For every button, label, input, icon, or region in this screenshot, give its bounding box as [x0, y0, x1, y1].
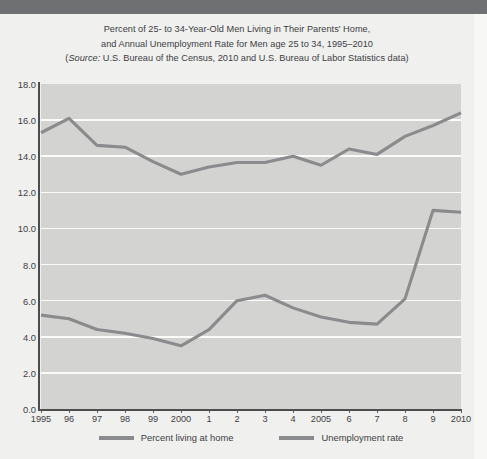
- x-axis-line: [38, 409, 462, 411]
- x-axis-tick: [405, 409, 406, 413]
- plot-area-wrapper: [41, 84, 461, 409]
- x-axis-tick: [209, 409, 210, 413]
- y-axis-line: [38, 82, 40, 411]
- legend-item-percent-living-at-home: Percent living at home: [99, 432, 234, 443]
- y-axis-tick-label: 4.0: [2, 331, 36, 342]
- x-axis-tick-label: 99: [148, 414, 158, 424]
- x-axis-tick: [97, 409, 98, 413]
- legend-label: Unemployment rate: [321, 432, 403, 443]
- y-axis-tick-label: 18.0: [2, 79, 36, 90]
- x-axis-tick: [41, 409, 42, 413]
- x-axis-tick: [265, 409, 266, 413]
- y-axis-tick-label: 0.0: [2, 404, 36, 415]
- x-axis-tick: [153, 409, 154, 413]
- x-axis-tick: [181, 409, 182, 413]
- y-axis-tick-label: 14.0: [2, 151, 36, 162]
- x-axis-tick: [321, 409, 322, 413]
- chart-page: Percent of 25- to 34-Year-Old Men Living…: [0, 0, 487, 459]
- x-axis-tick-label: 1: [206, 414, 211, 424]
- x-axis-tick-label: 7: [374, 414, 379, 424]
- x-axis-tick-label: 96: [64, 414, 74, 424]
- series-line-unemployment-rate: [41, 210, 461, 345]
- x-axis-tick-label: 2010: [451, 414, 471, 424]
- x-axis-tick: [125, 409, 126, 413]
- legend-swatch-icon: [99, 436, 134, 440]
- x-axis-tick: [237, 409, 238, 413]
- chart-title-line-2: and Annual Unemployment Rate for Men age…: [0, 37, 474, 52]
- chart-source-line: (Source: U.S. Bureau of the Census, 2010…: [0, 51, 474, 66]
- x-axis-tick: [461, 409, 462, 413]
- source-text: U.S. Bureau of the Census, 2010 and U.S.…: [100, 53, 408, 63]
- series-layer: [41, 84, 461, 409]
- page-right-margin: [474, 14, 487, 459]
- y-axis-tick-label: 16.0: [2, 115, 36, 126]
- x-axis-tick-label: 2: [234, 414, 239, 424]
- y-axis-tick-label: 2.0: [2, 367, 36, 378]
- x-axis-tick: [293, 409, 294, 413]
- x-axis-tick: [349, 409, 350, 413]
- x-axis-tick-label: 2005: [311, 414, 331, 424]
- legend-label: Percent living at home: [141, 432, 234, 443]
- x-axis-tick-label: 97: [92, 414, 102, 424]
- legend-swatch-icon: [279, 436, 314, 440]
- series-line-percent-living-at-home: [41, 113, 461, 174]
- x-axis-tick-label: 9: [430, 414, 435, 424]
- x-axis-tick: [433, 409, 434, 413]
- x-axis-tick-label: 4: [290, 414, 295, 424]
- legend-item-unemployment-rate: Unemployment rate: [279, 432, 403, 443]
- x-axis-tick-label: 6: [346, 414, 351, 424]
- x-axis-tick-label: 8: [402, 414, 407, 424]
- y-axis-tick-label: 12.0: [2, 187, 36, 198]
- chart-title-line-1: Percent of 25- to 34-Year-Old Men Living…: [0, 22, 474, 37]
- chart-legend: Percent living at home Unemployment rate: [41, 432, 461, 443]
- page-top-band: [0, 0, 487, 14]
- x-axis-tick: [377, 409, 378, 413]
- y-axis-tick-label: 10.0: [2, 223, 36, 234]
- x-axis-tick: [69, 409, 70, 413]
- chart-title-block: Percent of 25- to 34-Year-Old Men Living…: [0, 22, 474, 66]
- y-axis-tick-label: 6.0: [2, 295, 36, 306]
- x-axis-tick-label: 2000: [171, 414, 191, 424]
- y-axis-labels: 0.02.04.06.08.010.012.014.016.018.0: [0, 0, 36, 459]
- y-axis-tick-label: 8.0: [2, 259, 36, 270]
- source-label: Source:: [68, 53, 100, 63]
- x-axis-tick-label: 3: [262, 414, 267, 424]
- x-axis-tick-label: 1995: [31, 414, 51, 424]
- x-axis-tick-label: 98: [120, 414, 130, 424]
